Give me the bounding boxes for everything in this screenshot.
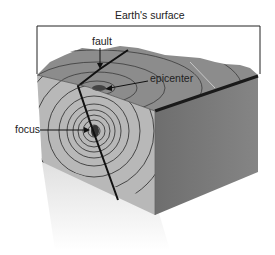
label-focus: focus: [15, 123, 40, 135]
label-epicenter: epicenter: [150, 72, 194, 84]
epicenter-marker: [92, 85, 106, 91]
earthquake-diagram: Earth's surface fault epicenter focus: [0, 0, 275, 255]
label-fault: fault: [92, 35, 112, 47]
label-earths-surface: Earth's surface: [115, 9, 185, 21]
